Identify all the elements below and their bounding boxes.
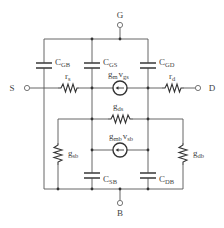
- label-c-sb: CSB: [103, 174, 118, 185]
- terminal-drain: [195, 85, 200, 90]
- label-c-gd: CGD: [159, 57, 175, 68]
- terminal-source: [24, 85, 29, 90]
- label-r-s: rs: [65, 71, 71, 82]
- current-source-gm: [113, 81, 127, 95]
- label-r-d: rd: [169, 71, 176, 82]
- label-c-gb: CGB: [55, 57, 71, 68]
- resistor-rd: [162, 84, 184, 92]
- label-drain: D: [209, 83, 216, 93]
- capacitor-cgd: [140, 63, 156, 68]
- label-c-db: CDB: [159, 174, 175, 185]
- label-gate: G: [117, 10, 124, 20]
- resistor-gdb: [179, 143, 187, 165]
- resistor-gds: [108, 115, 133, 123]
- capacitor-cdb: [140, 173, 156, 178]
- resistor-rs: [58, 84, 79, 92]
- current-source-gmb: [113, 143, 127, 157]
- label-gmb-vsb: gmbvsb: [109, 131, 133, 142]
- label-g-sb: gsb: [68, 148, 78, 159]
- label-g-ds: gds: [113, 101, 124, 112]
- terminal-body: [117, 200, 122, 205]
- capacitor-cgs: [84, 63, 100, 68]
- terminal-gate: [117, 22, 122, 27]
- capacitor-csb: [84, 173, 100, 178]
- label-source: S: [9, 83, 14, 93]
- circuit-diagram: G S D B CGB CGS CGD rs rd gmvgs gds gmbv…: [0, 0, 224, 228]
- label-body: B: [117, 208, 123, 218]
- label-gm-vgs: gmvgs: [108, 69, 129, 80]
- resistor-gsb: [54, 143, 62, 165]
- capacitor-cgb: [36, 63, 52, 68]
- label-c-gs: CGS: [103, 57, 118, 68]
- label-g-db: gdb: [193, 148, 204, 159]
- wires: [30, 28, 195, 200]
